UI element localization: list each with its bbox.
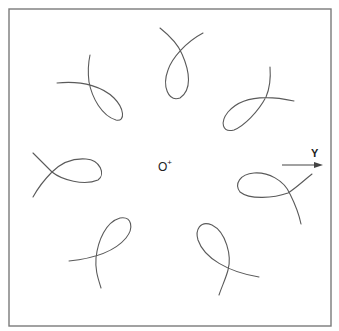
loop-upper-left	[57, 55, 123, 120]
origin-marker: +	[167, 158, 172, 167]
origin-letter: O	[158, 160, 167, 174]
loop-lower-left	[69, 218, 131, 288]
loop-left	[33, 153, 102, 197]
loop-lower-right	[197, 224, 259, 295]
arrowhead-icon	[314, 162, 323, 168]
loop-upper-right	[223, 67, 294, 131]
loop-top	[160, 28, 203, 99]
y-axis-label: Y	[311, 147, 318, 159]
loop-right	[238, 173, 312, 224]
origin-label: O+	[158, 159, 172, 174]
